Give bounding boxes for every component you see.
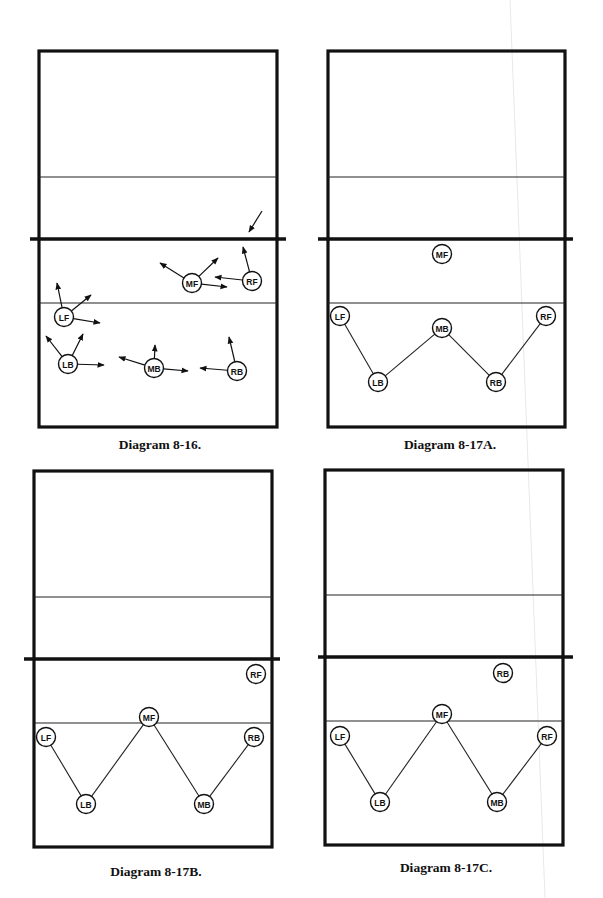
movement-arrow-rf-left [215,277,243,280]
player-label: MF [436,710,448,720]
player-mb: MB [488,793,507,812]
player-rb: RB [228,362,247,381]
movement-arrow-mf-forward-right [199,258,218,276]
rotation-line-mb-rf [503,744,542,795]
player-lf: LF [37,728,56,747]
player-label: MF [143,713,155,723]
player-lf: LF [55,308,74,327]
player-label: RB [490,378,502,388]
diagram-8-17c: RBMFLFRFLBMB Diagram 8-17C. [318,470,573,875]
diagram-caption: Diagram 8-17B. [110,864,202,879]
movement-arrow-mb-left [119,357,145,365]
player-label: LF [335,312,345,322]
movement-arrow-rb-left [200,368,228,370]
player-label: MB [490,798,503,808]
rotation-line-mf-mb [154,725,199,796]
player-mb: MB [145,359,164,378]
player-label: RF [250,670,261,680]
player-label: RF [541,732,552,742]
player-lb: LB [77,795,96,814]
player-label: MF [436,250,448,260]
player-rf: RF [537,307,556,326]
player-label: LF [335,732,345,742]
player-label: MB [435,324,448,334]
rotation-lines [345,722,541,795]
player-lb: LB [59,355,78,374]
player-label: LF [41,733,51,743]
movement-arrow-lb-forward-right [72,334,83,356]
movement-arrow-mb-forward [154,345,155,359]
players: RBMFLFRFLBMB [331,664,557,812]
player-rb: RB [494,664,513,683]
diagram-8-16: MFRFLFLBMBRB Diagram 8-16. [30,51,286,452]
diagram-caption: Diagram 8-17C. [400,860,492,875]
player-mf: MF [183,274,202,293]
player-label: LB [374,798,385,808]
player-mb: MB [433,319,452,338]
player-rb: RB [245,728,264,747]
player-lb: LB [369,373,388,392]
player-lf: LF [331,727,350,746]
movement-arrow-mf-back-left [160,263,184,278]
rotation-line-mb-rb [449,335,490,376]
player-label: MB [147,364,160,374]
player-label: LB [80,800,91,810]
player-mb: MB [195,795,214,814]
player-label: RB [231,367,243,377]
player-label: RF [540,312,551,322]
player-lf: LF [331,307,350,326]
movement-arrow-lf-right [73,319,100,323]
rotation-lines [51,725,248,797]
rotation-line-rb-rf [502,324,541,375]
rotation-line-lb-mb [385,334,434,376]
player-lb: LB [371,793,390,812]
movement-arrow-rb-forward [229,337,235,362]
movement-arrow-lf-forward [57,283,62,308]
movement-arrow-mb-right [163,369,188,371]
rotation-line-lb-mf [92,725,144,797]
player-rf: RF [243,272,262,291]
incoming-ball-arrow [249,211,262,232]
player-label: LB [62,360,73,370]
player-label: LB [372,378,383,388]
volleyball-diagrams-page: MFRFLFLBMBRB Diagram 8-16. MFLFMBRFLBRB … [0,0,603,898]
player-rf: RF [247,665,266,684]
movement-arrow-mf-right [201,284,227,287]
diagram-8-17b: RFMFLFRBLBMB Diagram 8-17B. [24,471,280,879]
player-rf: RF [538,727,557,746]
diagram-8-17a: MFLFMBRFLBRB Diagram 8-17A. [318,51,573,452]
player-label: LF [59,313,69,323]
scan-artifact [510,0,545,898]
players: MFLFMBRFLBRB [331,245,556,392]
diagram-caption: Diagram 8-16. [119,437,201,452]
movement-arrow-lb-forward-left [46,336,62,357]
diagram-caption: Diagram 8-17A. [404,437,496,452]
player-label: RB [248,733,260,743]
movement-arrows [46,247,250,371]
rotation-line-lf-lb [345,744,375,794]
player-mf: MF [433,245,452,264]
movement-arrow-lb-right [77,364,104,365]
player-label: MB [197,800,210,810]
players: RFMFLFRBLBMB [37,665,266,814]
rotation-line-mb-rb [210,745,249,797]
rotation-line-lb-mf [385,722,436,794]
rotation-line-lf-lb [345,324,374,374]
rotation-line-mf-mb [447,722,492,794]
player-label: MF [186,279,198,289]
player-label: RF [246,277,257,287]
movement-arrow-rf-forward [243,247,250,272]
player-mf: MF [433,705,452,724]
rotation-line-lf-lb [51,745,81,796]
player-rb: RB [487,373,506,392]
player-mf: MF [140,708,159,727]
player-label: RB [497,669,509,679]
